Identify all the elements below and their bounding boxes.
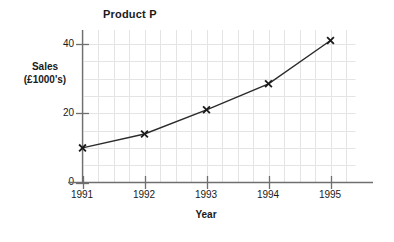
chart-figure: Product P Sales (£1000's) Year 40 20 0 1…	[0, 0, 394, 242]
plot-area	[0, 0, 394, 242]
axis-lines	[68, 30, 373, 183]
data-point-1993	[203, 106, 210, 113]
data-point-1995	[327, 37, 334, 44]
gridlines	[83, 30, 356, 183]
data-markers	[79, 37, 334, 151]
data-point-1994	[265, 80, 272, 87]
